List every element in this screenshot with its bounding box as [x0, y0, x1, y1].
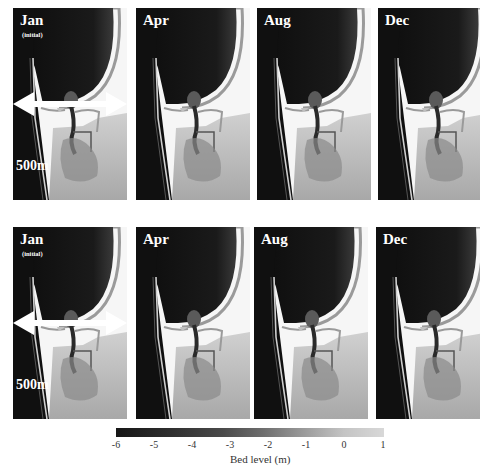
map-panel-top-dec: Dec: [378, 8, 480, 200]
bathymetry-map: [257, 8, 371, 200]
map-panel-bottom-dec: Dec: [376, 227, 480, 419]
double-arrow-icon: [13, 227, 127, 419]
month-label: Dec: [385, 13, 409, 28]
month-label: Aug: [261, 232, 288, 247]
colorbar-tick: 0: [342, 439, 347, 450]
bathymetry-map: [378, 8, 480, 200]
map-panel-top-aug: Aug: [257, 8, 371, 200]
colorbar-tick: 1: [381, 439, 386, 450]
bathymetry-map: [136, 227, 250, 419]
map-panel-top-jan: Jan (initial) 500m: [13, 8, 127, 200]
month-label: Aug: [264, 13, 291, 28]
colorbar-tick: -1: [302, 439, 310, 450]
double-arrow-icon: [13, 8, 127, 200]
bathymetry-map: [136, 8, 250, 200]
map-panel-top-apr: Apr: [136, 8, 250, 200]
colorbar-label: Bed level (m): [230, 453, 290, 465]
month-label: Apr: [143, 232, 169, 247]
bathymetry-map: [254, 227, 368, 419]
map-panel-bottom-aug: Aug: [254, 227, 368, 419]
month-label: Apr: [143, 13, 169, 28]
colorbar-tick: -6: [112, 439, 120, 450]
bathymetry-map: [376, 227, 480, 419]
colorbar-tick: -3: [226, 439, 234, 450]
map-panel-bottom-apr: Apr: [136, 227, 250, 419]
colorbar: [116, 428, 384, 437]
colorbar-tick: -5: [150, 439, 158, 450]
map-panel-bottom-jan: Jan (initial) 500m: [13, 227, 127, 419]
colorbar-tick: -4: [188, 439, 196, 450]
colorbar-tick: -2: [264, 439, 272, 450]
month-label: Dec: [383, 232, 407, 247]
